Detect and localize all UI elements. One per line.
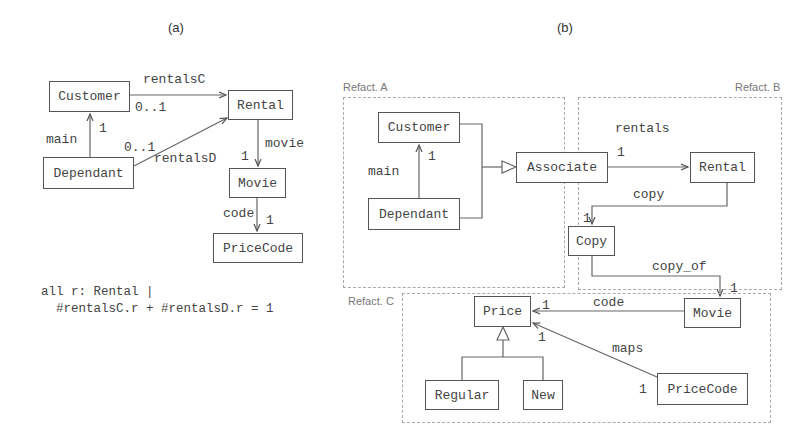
class-new: New <box>523 380 563 410</box>
mult-rentals: 1 <box>617 146 625 159</box>
mult-maps-pricecode: 1 <box>639 383 647 396</box>
panel-a-label: (a) <box>168 20 184 35</box>
edge-label-rentalsC: rentalsC <box>143 73 205 86</box>
class-copy: Copy <box>568 226 615 256</box>
mult-movie: 1 <box>241 150 249 163</box>
mult-copy: 1 <box>583 212 591 225</box>
edge-label-maps: maps <box>612 342 643 355</box>
class-regular: Regular <box>425 380 499 410</box>
edge-label-main-b: main <box>368 165 399 178</box>
edge-label-main-a: main <box>46 133 77 146</box>
class-rental-a: Rental <box>228 90 293 120</box>
edge-label-movie: movie <box>265 137 304 150</box>
mult-code-a: 1 <box>266 214 274 227</box>
region-label-refact-c: Refact. C <box>348 296 394 307</box>
constraint-line-1: all r: Rental | <box>41 284 154 301</box>
class-dependant-b: Dependant <box>368 198 460 230</box>
class-dependant-a: Dependant <box>43 157 134 189</box>
class-pricecode-a: PriceCode <box>213 233 303 263</box>
edge-label-copy-of: copy_of <box>652 260 707 273</box>
mult-maps-price: 1 <box>538 331 546 344</box>
mult-rentalsD: 0..1 <box>124 141 155 154</box>
class-customer-a: Customer <box>49 81 130 112</box>
mult-rentalsC: 0..1 <box>135 101 166 114</box>
edge-label-rentals: rentals <box>615 122 670 135</box>
mult-main-b: 1 <box>428 150 436 163</box>
class-associate: Associate <box>516 152 608 183</box>
edge-label-code-a: code <box>223 207 254 220</box>
mult-code-b: 1 <box>542 299 550 312</box>
edge-label-rentalsD: rentalsD <box>154 152 216 165</box>
class-customer-b: Customer <box>378 112 460 143</box>
class-rental-b: Rental <box>690 152 755 183</box>
class-pricecode-b: PriceCode <box>657 373 748 405</box>
mult-main-a: 1 <box>99 122 107 135</box>
class-movie-a: Movie <box>229 168 286 198</box>
panel-b-label: (b) <box>557 20 573 35</box>
class-price: Price <box>474 296 531 327</box>
region-label-refact-a: Refact. A <box>343 82 388 93</box>
mult-copy-of: 1 <box>730 282 738 295</box>
region-label-refact-b: Refact. B <box>735 82 780 93</box>
edge-label-code-b: code <box>593 296 624 309</box>
edge-label-copy: copy <box>633 188 664 201</box>
class-movie-b: Movie <box>684 298 741 328</box>
constraint-line-2: #rentalsC.r + #rentalsD.r = 1 <box>41 301 274 318</box>
